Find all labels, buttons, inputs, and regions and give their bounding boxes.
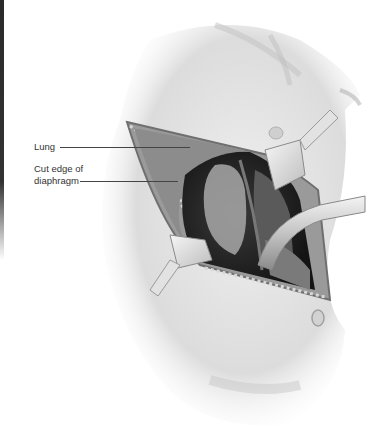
navel [312, 310, 324, 326]
label-diaphragm-line1: Cut edge of [34, 163, 83, 174]
label-diaphragm-line2: diaphragm [34, 175, 79, 186]
label-lung: Lung [34, 141, 55, 152]
nipple [269, 127, 283, 139]
leader-line-lung [60, 147, 190, 148]
leader-line-diaphragm [80, 181, 178, 182]
surgical-illustration [0, 0, 388, 442]
